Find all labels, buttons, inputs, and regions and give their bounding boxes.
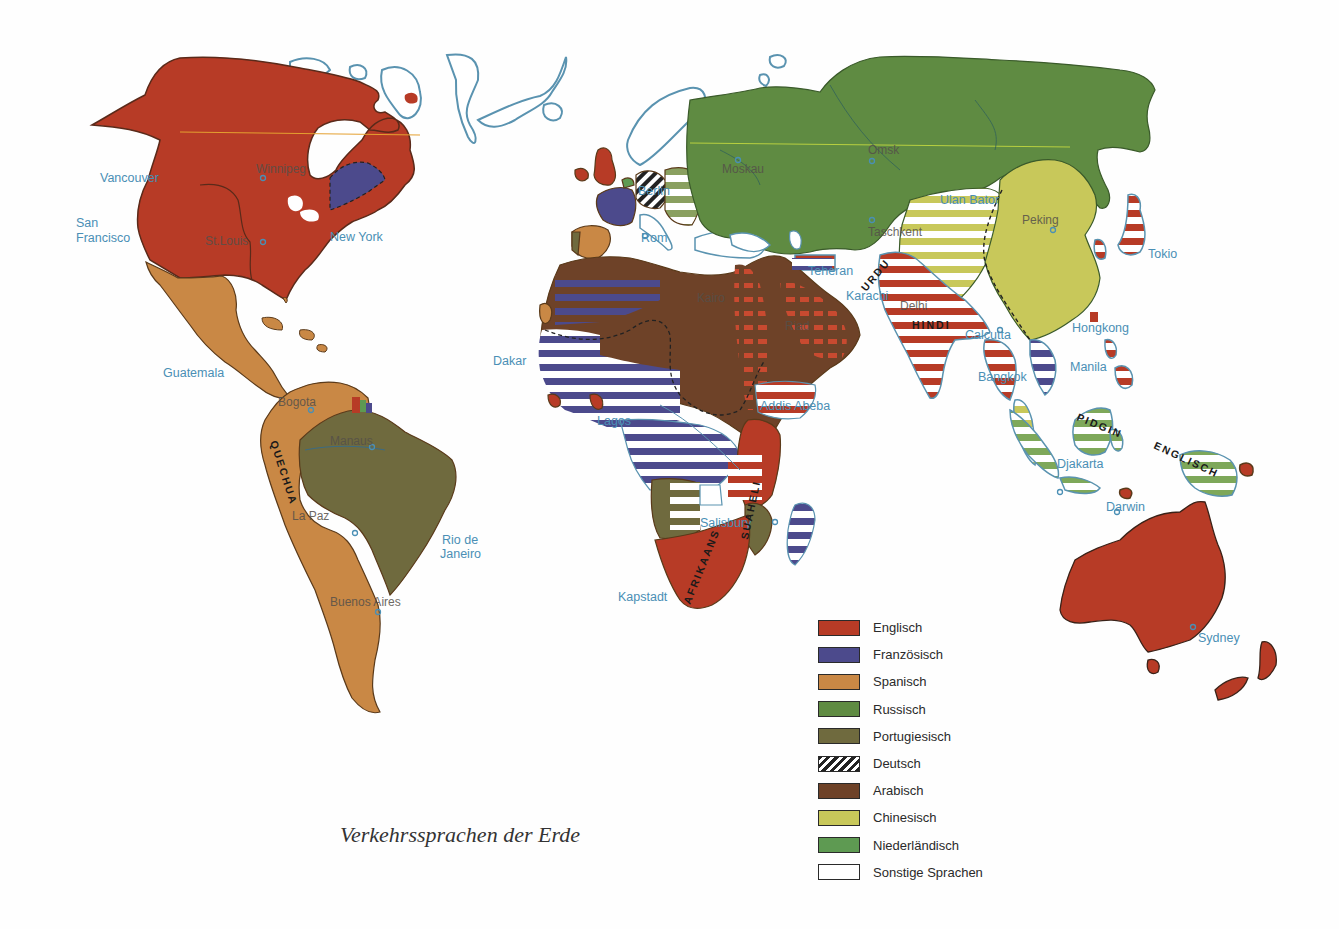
legend-label: Niederländisch — [873, 838, 959, 853]
label-st-louis: St.Louis — [205, 234, 248, 248]
label-san-francisco-2: Francisco — [76, 231, 130, 245]
legend-label: Spanisch — [873, 674, 926, 689]
label-djakarta: Djakarta — [1057, 457, 1104, 471]
label-new-york: New York — [330, 230, 384, 244]
label-taschkent: Taschkent — [868, 225, 923, 239]
legend-label: Portugiesisch — [873, 729, 951, 744]
legend-item-deutsch: Deutsch — [818, 750, 1018, 777]
swatch-englisch — [818, 620, 860, 636]
label-manaus: Manaus — [330, 434, 373, 448]
label-san-francisco-1: San — [76, 216, 98, 230]
label-bangkok: Bangkok — [978, 370, 1027, 384]
label-winnipeg: Winnipeg — [256, 162, 306, 176]
label-sydney: Sydney — [1198, 631, 1240, 645]
legend-item-portugiesisch: Portugiesisch — [818, 723, 1018, 750]
label-hindi: HINDI — [912, 319, 951, 331]
legend-item-franzoesisch: Französisch — [818, 641, 1018, 668]
map-caption: Verkehrssprachen der Erde — [340, 822, 580, 848]
legend-item-sonstige: Sonstige Sprachen — [818, 859, 1018, 886]
swatch-chinesisch — [818, 810, 860, 826]
label-manila: Manila — [1070, 360, 1107, 374]
swatch-spanisch — [818, 674, 860, 690]
legend-item-spanisch: Spanisch — [818, 668, 1018, 695]
label-rio-1: Rio de — [442, 533, 478, 547]
label-vancouver: Vancouver — [100, 171, 159, 185]
label-rio-2: Janeiro — [440, 547, 481, 561]
swatch-russisch — [818, 701, 860, 717]
legend-label: Russisch — [873, 702, 926, 717]
label-riad: Riad — [785, 319, 810, 333]
legend-label: Chinesisch — [873, 810, 937, 825]
legend-item-niederlaendisch: Niederländisch — [818, 832, 1018, 859]
label-delhi: Delhi — [900, 299, 927, 313]
legend-label: Arabisch — [873, 783, 924, 798]
label-kairo: Kairo — [697, 291, 725, 305]
legend-label: Französisch — [873, 647, 943, 662]
legend-label: Sonstige Sprachen — [873, 865, 983, 880]
label-peking: Peking — [1022, 213, 1059, 227]
label-omsk: Omsk — [868, 143, 900, 157]
label-kapstadt: Kapstadt — [618, 590, 668, 604]
swatch-arabisch — [818, 783, 860, 799]
label-lagos: Lagos — [597, 414, 631, 428]
legend-label: Englisch — [873, 620, 922, 635]
label-teheran: Teheran — [808, 264, 853, 278]
label-berlin: Berlin — [638, 184, 670, 198]
caribbean-islands — [262, 297, 327, 352]
swatch-franzoesisch — [818, 647, 860, 663]
swatch-sonstige — [818, 864, 860, 880]
label-buenos-aires: Buenos Aires — [330, 595, 401, 609]
legend-item-arabisch: Arabisch — [818, 777, 1018, 804]
legend-item-chinesisch: Chinesisch — [818, 804, 1018, 831]
label-la-paz: La Paz — [292, 509, 329, 523]
label-ulan-bator: Ulan Bator — [940, 193, 999, 207]
label-hongkong: Hongkong — [1072, 321, 1129, 335]
world-language-map: Vancouver San Francisco Winnipeg St.Loui… — [0, 0, 1339, 929]
label-rom: Rom — [641, 231, 667, 245]
label-darwin: Darwin — [1106, 500, 1145, 514]
label-addis-abeba: Addis Abeba — [760, 399, 830, 413]
label-guatemala: Guatemala — [163, 366, 224, 380]
swatch-deutsch — [818, 756, 860, 772]
legend-label: Deutsch — [873, 756, 921, 771]
swatch-niederlaendisch — [818, 837, 860, 853]
label-bogota: Bogota — [278, 395, 316, 409]
label-calcutta: Calcutta — [965, 328, 1011, 342]
legend-item-englisch: Englisch — [818, 614, 1018, 641]
map-legend: Englisch Französisch Spanisch Russisch P… — [818, 614, 1018, 886]
label-dakar: Dakar — [493, 354, 526, 368]
label-moskau: Moskau — [722, 162, 764, 176]
swatch-portugiesisch — [818, 728, 860, 744]
legend-item-russisch: Russisch — [818, 696, 1018, 723]
label-tokio: Tokio — [1148, 247, 1177, 261]
region-oceania — [1060, 502, 1276, 700]
